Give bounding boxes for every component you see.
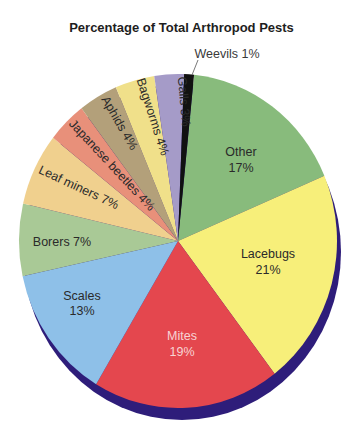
pie-chart: Weevils 1% Other 17% Lacebugs 21% Mites … <box>0 0 363 434</box>
label-mites-pct: 19% <box>169 345 194 359</box>
label-lacebugs-pct: 21% <box>255 263 280 277</box>
label-borers: Borers 7% <box>33 235 91 249</box>
label-mites-name: Mites <box>167 329 197 343</box>
label-scales-pct: 13% <box>69 304 94 318</box>
label-other-name: Other <box>225 145 256 159</box>
label-lacebugs-name: Lacebugs <box>241 247 295 261</box>
label-scales-name: Scales <box>63 289 101 303</box>
label-other-pct: 17% <box>228 161 253 175</box>
weevils-leader-line <box>192 60 198 75</box>
label-weevils: Weevils 1% <box>194 47 259 61</box>
